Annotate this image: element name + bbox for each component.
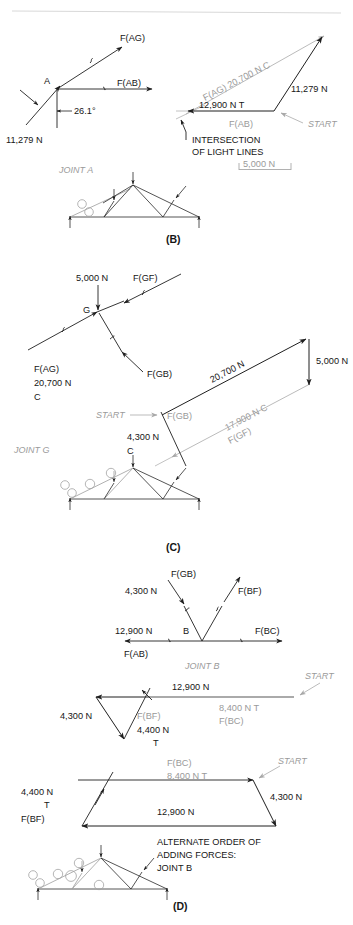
label-fgb-fbd-d: F(GB): [171, 569, 196, 579]
top-rule: [12, 11, 341, 13]
figure-vector-layer: F(AG) F(AB) A 26.1° 11,279 N JOINT A F(A…: [0, 0, 353, 925]
label-reaction-b: 11,279 N: [6, 135, 43, 145]
intersection-callout-leader: [181, 120, 186, 140]
force-arrow-reaction: [26, 86, 60, 125]
label-4300-fbd-d: 4,300 N: [125, 586, 157, 596]
label-5000-polygon-c: 5,000 N: [316, 356, 348, 366]
member-bf-d: [202, 606, 222, 641]
panel-c-force-polygon: [130, 339, 309, 466]
label-c-suffix-polygon-c: C: [127, 446, 134, 456]
label-fab-b: F(AB): [117, 78, 141, 88]
force-arrow-fgb-d: [168, 580, 184, 604]
label-fag-c: F(AG): [34, 364, 59, 374]
label-fbf-fbd-d: F(BF): [238, 586, 261, 596]
force-arrow-fgb: [122, 352, 143, 372]
label-fbf-d1: F(BF): [137, 711, 160, 721]
panel-id-d: (D): [173, 900, 188, 912]
label-fag-b: F(AG): [120, 33, 145, 43]
label-start-d1: START: [305, 671, 335, 681]
label-12900-d1: 12,900 N: [172, 682, 209, 692]
label-fbc-fbd-d: F(BC): [255, 626, 280, 636]
label-joint-a: JOINT A: [58, 165, 93, 175]
label-start-b: START: [308, 119, 338, 129]
label-fgb-polygon-c: F(GB): [167, 411, 192, 421]
label-20700-fbd-c: 20,700 N: [34, 378, 71, 388]
label-fab-polygon-b: F(AB): [229, 119, 253, 129]
label-11279-polygon-b: 11,279 N: [291, 84, 328, 94]
force-arrow-fag: [57, 47, 122, 89]
label-fgb-c: F(GB): [147, 369, 172, 379]
node-label-b: B: [183, 626, 189, 636]
caption-alternate-line2: ADDING FORCES:: [157, 850, 236, 860]
label-fgf-c: F(GF): [133, 273, 158, 283]
node-label-a: A: [44, 76, 51, 86]
caption-alternate-line1: ALTERNATE ORDER OF: [157, 837, 261, 847]
label-joint-b: JOINT B: [184, 661, 220, 671]
label-fab-fbd-d: F(AB): [124, 649, 148, 659]
label-4300-c: 4,300 N: [127, 432, 159, 442]
label-4300-d1: 4,300 N: [60, 711, 92, 721]
label-12900-b: 12,900 N T: [199, 100, 245, 110]
label-12900-fbd-d: 12,900 N: [115, 626, 152, 636]
hash-tick-fag: [90, 58, 93, 63]
label-4400-d2: 4,400 N: [21, 787, 53, 797]
label-8400-d2: 8,400 N T: [167, 771, 208, 781]
label-fag-polygon-b-group: F(AG) 20,700 N C: [201, 60, 272, 103]
label-start-d2: START: [278, 756, 308, 766]
start-leader-d1: [300, 683, 320, 695]
label-5000n-c: 5,000 N: [76, 273, 108, 283]
label-fag-polygon-b: F(AG) 20,700 N C: [201, 60, 272, 103]
label-4300-d2: 4,300 N: [270, 792, 302, 802]
figure-sheet: F(AG) F(AB) A 26.1° 11,279 N JOINT A F(A…: [0, 0, 353, 925]
reaction-pointer: [20, 90, 38, 105]
label-scale-bar-b: 5,000 N: [243, 159, 275, 169]
start-leader-b: [281, 113, 303, 123]
panel-id-b: (B): [166, 233, 181, 245]
vector-4300n-d2: [253, 780, 276, 826]
label-angle-b: 26.1°: [74, 106, 96, 116]
label-c-suffix-c: C: [34, 392, 41, 402]
label-fbc-d2: F(BC): [167, 758, 192, 768]
vector-4300n-d1: [96, 697, 124, 739]
label-fbf-d2: F(BF): [21, 814, 44, 824]
start-leader-d2: [259, 766, 280, 778]
node-label-g: G: [83, 305, 90, 315]
label-t-d2: T: [44, 800, 50, 810]
label-start-c: START: [96, 410, 126, 420]
panel-c-truss-icon: [61, 455, 199, 510]
label-4400-d1: 4,400 N: [137, 725, 169, 735]
label-12900-d2: 12,900 N: [157, 807, 194, 817]
member-gb: [99, 313, 122, 352]
label-fbc-d1: F(BC): [219, 716, 244, 726]
callout-intersection-line2: OF LIGHT LINES: [192, 147, 263, 157]
panel-b-truss-icon: [70, 172, 199, 228]
panel-id-c: (C): [166, 541, 181, 553]
panel-d-truss-icon: [29, 845, 167, 900]
label-joint-g: JOINT G: [13, 445, 50, 455]
vector-reaction-11279: [274, 37, 322, 111]
callout-intersection-line1: INTERSECTION: [192, 135, 260, 145]
caption-alternate-line3: JOINT B: [157, 863, 192, 873]
label-t-d1: T: [153, 738, 159, 748]
panel-c-free-body-diagram: [28, 274, 181, 372]
label-8400-d1: 8,400 N T: [219, 703, 260, 713]
vector-20700n: [162, 339, 306, 415]
